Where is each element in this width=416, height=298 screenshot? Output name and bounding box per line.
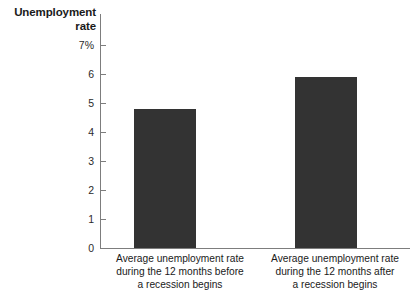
y-axis-tick-label-wrap: 3 bbox=[30, 156, 94, 167]
y-axis-tick-label: 1 bbox=[32, 214, 94, 225]
y-axis-tick-label: 5 bbox=[32, 98, 94, 109]
y-axis-title: Unemployment rate bbox=[6, 6, 96, 33]
bar-before-recession bbox=[134, 109, 196, 248]
category-label-before: Average unemployment rate during the 12 … bbox=[100, 252, 260, 291]
y-axis-tick-label: 4 bbox=[32, 127, 94, 138]
y-axis-tick-label-wrap: 7% bbox=[30, 40, 94, 51]
y-axis-tick-label-wrap: 2 bbox=[30, 185, 94, 196]
y-axis-tick-label: 0 bbox=[32, 243, 94, 254]
y-axis-tick-label-wrap: 0 bbox=[30, 243, 94, 254]
category-label-after: Average unemployment rate during the 12 … bbox=[255, 252, 415, 291]
y-axis-tick-label-wrap: 5 bbox=[30, 98, 94, 109]
y-axis-tick-label-wrap: 1 bbox=[30, 214, 94, 225]
y-axis-tick-label: 6 bbox=[32, 69, 94, 80]
y-axis-tick-label-wrap: 4 bbox=[30, 127, 94, 138]
y-axis-tick-label-wrap: 6 bbox=[30, 69, 94, 80]
y-axis-tick-label: 7% bbox=[32, 40, 94, 51]
plot-area bbox=[101, 14, 410, 248]
x-axis-line bbox=[100, 248, 410, 249]
bar-after-recession bbox=[295, 77, 357, 248]
y-axis-tick-label: 3 bbox=[32, 156, 94, 167]
unemployment-rate-bar-chart: Unemployment rate 7%6543210 Average unem… bbox=[0, 0, 416, 298]
y-axis-tick-label: 2 bbox=[32, 185, 94, 196]
